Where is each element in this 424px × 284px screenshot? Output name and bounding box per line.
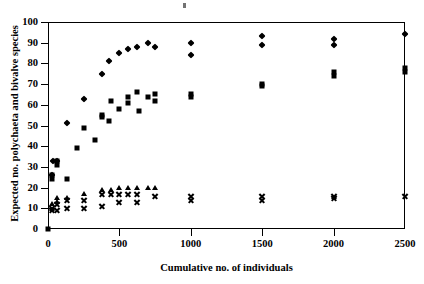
x-tick-label: 500: [89, 238, 149, 249]
y-tick-label: 20: [4, 183, 38, 193]
y-tick-mark: [41, 167, 48, 168]
y-tick-label: 100: [4, 17, 38, 27]
y-tick-mark: [41, 84, 48, 85]
y-tick-label: 90: [4, 38, 38, 48]
x-axis-title: Cumulative no. of individuals: [48, 262, 405, 273]
y-tick-label: 10: [4, 203, 38, 213]
scatter-chart-figure: Expected no. polychaeta and bivalve spec…: [0, 0, 424, 284]
y-tick-mark: [41, 22, 48, 23]
x-tick-mark: [191, 229, 192, 236]
x-tick-mark: [262, 229, 263, 236]
y-tick-mark: [41, 43, 48, 44]
x-tick-label: 2000: [304, 238, 364, 249]
x-tick-mark: [334, 229, 335, 236]
x-tick-label: 0: [18, 238, 78, 249]
y-tick-label: 40: [4, 141, 38, 151]
x-tick-label: 1000: [161, 238, 221, 249]
y-tick-label: 30: [4, 162, 38, 172]
y-tick-label: 80: [4, 58, 38, 68]
y-tick-label: 0: [4, 224, 38, 234]
y-tick-mark: [41, 188, 48, 189]
y-tick-mark: [41, 126, 48, 127]
x-tick-label: 1500: [232, 238, 292, 249]
y-tick-label: 60: [4, 100, 38, 110]
plot-area: [48, 22, 405, 229]
x-tick-label: 2500: [375, 238, 424, 249]
page-artifact-mark: [183, 3, 186, 8]
y-tick-mark: [41, 146, 48, 147]
y-tick-mark: [41, 105, 48, 106]
y-tick-mark: [41, 208, 48, 209]
y-tick-mark: [41, 63, 48, 64]
y-tick-label: 50: [4, 121, 38, 131]
y-tick-label: 70: [4, 79, 38, 89]
x-tick-mark: [119, 229, 120, 236]
